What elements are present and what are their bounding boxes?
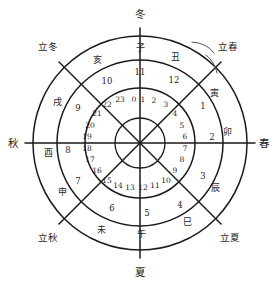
- radial-spokes: [25, 28, 255, 258]
- circular-season-hour-diagram: 冬春夏秋立春立夏立秋立冬子丑寅卯辰巳午未申酉戌亥1212345678910110…: [0, 0, 277, 283]
- wheel-graphic: [0, 0, 277, 283]
